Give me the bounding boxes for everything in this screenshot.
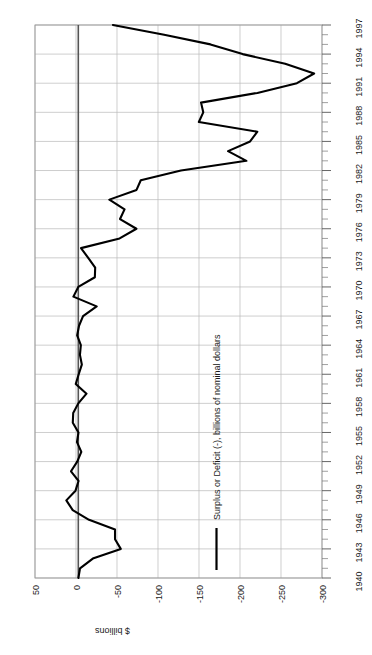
legend-entry-label: Surplus or Deficit (-), billions of nomi…	[212, 334, 222, 520]
value-axis-title: $ billions	[94, 626, 130, 636]
year-tick-label: 1967	[354, 310, 364, 330]
year-tick-label: 1982	[354, 164, 364, 184]
year-tick-label: 1964	[354, 339, 364, 359]
value-tick-label: -250	[277, 585, 287, 603]
year-tick-label: 1943	[354, 542, 364, 562]
year-tick-label: 1985	[354, 135, 364, 155]
chart-container: 500-50-100-150-200-250-300 1940194319461…	[0, 0, 372, 655]
value-tick-label: -50	[113, 585, 123, 598]
year-tick-label: 1961	[354, 368, 364, 388]
year-tick-label: 1991	[354, 77, 364, 97]
value-tick-label: -200	[236, 585, 246, 603]
year-tick-label: 1970	[354, 280, 364, 300]
value-tick-label: -100	[154, 585, 164, 603]
year-tick-label: 1976	[354, 222, 364, 242]
year-tick-label: 1940	[354, 571, 364, 591]
chart-background	[0, 0, 372, 655]
deficit-line-chart: 500-50-100-150-200-250-300 1940194319461…	[0, 0, 372, 655]
value-tick-label: -150	[195, 585, 205, 603]
year-tick-label: 1994	[354, 48, 364, 68]
year-tick-label: 1949	[354, 484, 364, 504]
year-tick-label: 1955	[354, 426, 364, 446]
value-tick-label: 50	[31, 585, 41, 595]
value-tick-label: -300	[318, 585, 328, 603]
value-tick-label: 0	[72, 585, 82, 590]
year-tick-label: 1946	[354, 513, 364, 533]
year-tick-label: 1997	[354, 18, 364, 38]
year-tick-label: 1988	[354, 106, 364, 126]
year-tick-label: 1979	[354, 193, 364, 213]
year-tick-label: 1958	[354, 397, 364, 417]
year-tick-label: 1952	[354, 455, 364, 475]
year-tick-label: 1973	[354, 251, 364, 271]
